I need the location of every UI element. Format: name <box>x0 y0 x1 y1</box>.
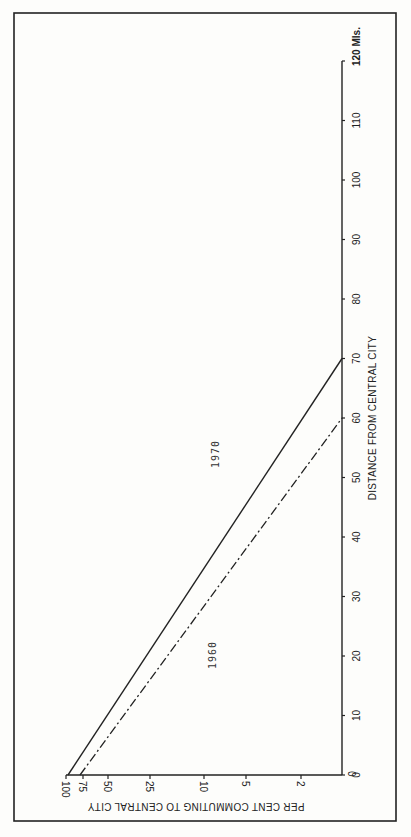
series-line-1960 <box>80 418 342 775</box>
tick-label-50pct: 50 <box>102 781 113 793</box>
series-line-1970 <box>68 359 342 776</box>
tick-label-30: 30 <box>351 591 362 603</box>
tick-label-110: 110 <box>351 112 362 128</box>
distance-tick-labels: 0 10 20 30 40 50 60 70 80 90 100 110 120… <box>351 27 362 778</box>
tick-label-90: 90 <box>351 234 362 246</box>
tick-label-100: 100 <box>351 171 362 188</box>
tick-label-2pct: 2 <box>295 781 306 787</box>
tick-label-80: 80 <box>351 293 362 305</box>
tick-label-10pct: 10 <box>198 781 209 793</box>
tick-label-60: 60 <box>351 412 362 424</box>
distance-axis-title: DISTANCE FROM CENTRAL CITY <box>367 336 378 501</box>
percent-axis-title: PER CENT COMMUTING TO CENTRAL CITY <box>87 801 304 812</box>
tick-label-20: 20 <box>351 650 362 662</box>
tick-label-5pct: 5 <box>240 781 251 787</box>
tick-label-25pct: 25 <box>144 781 155 793</box>
chart-canvas: 0 10 20 30 40 50 60 70 80 90 100 110 120… <box>0 0 411 837</box>
tick-label-40: 40 <box>351 531 362 543</box>
tick-label-100pct: 100 <box>60 781 71 798</box>
tick-label-10: 10 <box>351 710 362 722</box>
chart-frame <box>14 13 396 821</box>
tick-label-75pct: 75 <box>77 781 88 793</box>
tick-label-120: 120 Mls. <box>351 27 362 66</box>
series-label-1960: 1960 <box>207 641 218 669</box>
tick-label-50: 50 <box>351 472 362 484</box>
series-label-1970: 1970 <box>210 440 221 468</box>
tick-label-70: 70 <box>351 353 362 365</box>
tick-label-0pct: 0 <box>346 771 357 777</box>
